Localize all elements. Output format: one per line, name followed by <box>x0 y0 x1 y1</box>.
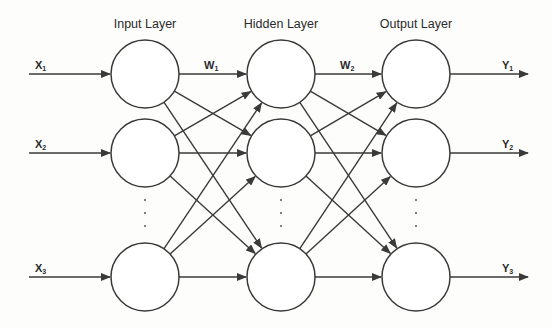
hidden-node-2 <box>247 119 315 187</box>
nodes <box>111 40 450 311</box>
hidden-node-3 <box>247 243 315 311</box>
input-ellipsis-dot-3 <box>144 225 146 227</box>
layer-title-input: Input Layer <box>114 17 177 31</box>
output-label-3: Y3 <box>502 262 513 275</box>
layer-title-hidden: Hidden Layer <box>244 17 318 31</box>
output-label-2: Y2 <box>502 138 513 151</box>
output-label-1: Y1 <box>502 59 513 72</box>
hidden-ellipsis-dot-3 <box>280 225 282 227</box>
weight-label-w2: W2 <box>340 59 354 72</box>
output-node-3 <box>382 243 450 311</box>
input-label-3: X3 <box>35 262 46 275</box>
input-node-2 <box>111 119 179 187</box>
layer-title-output: Output Layer <box>380 17 452 31</box>
input-ellipsis-dot-2 <box>144 212 146 214</box>
hidden-node-1 <box>247 40 315 108</box>
output-node-1 <box>382 40 450 108</box>
output-ellipsis-dot-2 <box>415 212 417 214</box>
input-label-1: X1 <box>35 59 46 72</box>
input-node-1 <box>111 40 179 108</box>
output-node-2 <box>382 119 450 187</box>
input-node-3 <box>111 243 179 311</box>
output-ellipsis-dot-1 <box>415 199 417 201</box>
input-label-2: X2 <box>35 138 46 151</box>
hidden-ellipsis-dot-2 <box>280 212 282 214</box>
weight-label-w1: W1 <box>204 59 218 72</box>
neural-network-diagram: Input Layer Hidden Layer Output Layer X1… <box>0 0 552 328</box>
ellipses <box>144 199 417 227</box>
input-ellipsis-dot-1 <box>144 199 146 201</box>
output-ellipsis-dot-3 <box>415 225 417 227</box>
hidden-ellipsis-dot-1 <box>280 199 282 201</box>
